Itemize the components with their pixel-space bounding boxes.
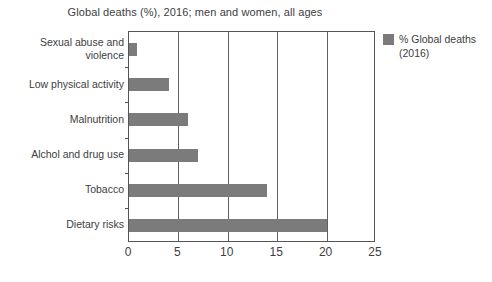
- bar-low-physical-activity[interactable]: [129, 78, 169, 91]
- category-axis-labels: Sexual abuse and violence Low physical a…: [0, 31, 124, 242]
- bar-alcohol-drug-use[interactable]: [129, 149, 198, 162]
- category-label-dietary-risks: Dietary risks: [0, 218, 124, 231]
- category-label-low-physical-activity: Low physical activity: [0, 77, 124, 90]
- chart-legend: % Global deaths (2016): [383, 32, 491, 60]
- bar-row: [129, 102, 374, 137]
- bar-sexual-abuse[interactable]: [129, 43, 137, 56]
- x-tick-label-0: 0: [125, 245, 132, 259]
- bars-layer: [129, 32, 374, 241]
- value-axis-labels: 0 5 10 15 20 25: [128, 245, 375, 265]
- legend-label-line2: (2016): [399, 47, 429, 59]
- x-tick-label-5: 5: [174, 245, 181, 259]
- x-tick-label-15: 15: [270, 245, 283, 259]
- bar-tobacco[interactable]: [129, 184, 267, 197]
- category-label-alcohol-drug-use: Alchol and drug use: [0, 148, 124, 161]
- bar-row: [129, 67, 374, 102]
- bar-malnutrition[interactable]: [129, 113, 188, 126]
- plot-area: [128, 31, 375, 242]
- category-label-sexual-abuse: Sexual abuse and violence: [0, 36, 124, 62]
- x-tick-label-25: 25: [368, 245, 381, 259]
- bar-dietary-risks[interactable]: [129, 219, 327, 232]
- bar-row: [129, 173, 374, 208]
- bar-row: [129, 32, 374, 67]
- x-tick-label-10: 10: [220, 245, 233, 259]
- bar-chart-figure: Global deaths (%), 2016; men and women, …: [0, 0, 492, 282]
- legend-swatch-icon: [383, 34, 394, 45]
- legend-label-line1: % Global deaths: [399, 33, 476, 45]
- chart-title: Global deaths (%), 2016; men and women, …: [0, 6, 390, 18]
- bar-row: [129, 138, 374, 173]
- bar-row: [129, 208, 374, 243]
- category-label-malnutrition: Malnutrition: [0, 112, 124, 125]
- x-tick-label-20: 20: [319, 245, 332, 259]
- legend-label: % Global deaths (2016): [399, 32, 476, 60]
- category-label-tobacco: Tobacco: [0, 183, 124, 196]
